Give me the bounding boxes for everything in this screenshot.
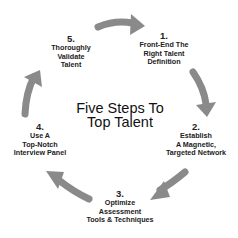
- step-3: 3. Optimize Assessment Tools & Technique…: [84, 189, 156, 225]
- step-1: 1. Front-End The Right Talent Definition: [134, 31, 194, 67]
- arrow-step5-to-step1-icon: [98, 22, 132, 27]
- arrowhead-right-icon: [196, 102, 216, 117]
- step-3-line-3: Tools & Techniques: [84, 216, 156, 225]
- step-2-line-3: Targeted Network: [160, 149, 232, 158]
- step-4-line-3: Interview Panel: [8, 149, 72, 158]
- arrow-step4-to-step5-icon: [25, 77, 34, 114]
- step-1-line-3: Definition: [134, 58, 194, 67]
- title-line-1: Five Steps To: [60, 101, 180, 115]
- step-5: 5. Thoroughly Validate Talent: [44, 34, 98, 70]
- step-4: 4. Use A Top-Notch Interview Panel: [8, 122, 72, 158]
- arrow-step1-to-step2-icon: [193, 72, 206, 104]
- step-5-line-3: Talent: [44, 61, 98, 70]
- step-2: 2. Establish A Magnetic, Targeted Networ…: [160, 122, 232, 158]
- five-steps-cycle-diagram: Five Steps To Top Talent 1. Front-End Th…: [0, 0, 238, 238]
